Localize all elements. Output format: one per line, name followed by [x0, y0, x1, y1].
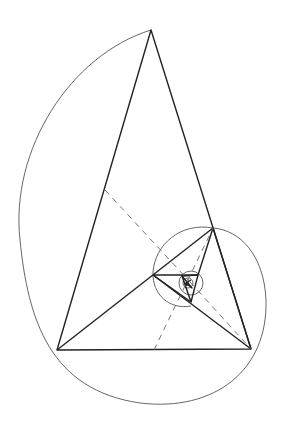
gnomon-edge-left-to-right	[57, 228, 213, 350]
spiral-arc-outer	[19, 30, 266, 404]
dashed-line-lower	[190, 282, 251, 349]
dashed-line-upper	[105, 190, 190, 282]
golden-triangle-spiral-diagram	[0, 0, 283, 422]
spiral-center-point	[185, 282, 189, 286]
spiral-arc-middle	[153, 227, 213, 307]
triangle-right-edge	[213, 228, 251, 349]
outer-golden-triangle	[57, 30, 251, 350]
